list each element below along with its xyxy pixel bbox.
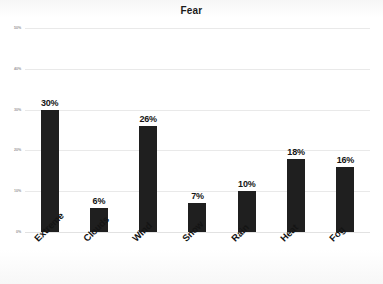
y-axis-tick-label: 40% [14,67,21,71]
y-axis-tick-label: 30% [14,108,21,112]
bar-value-label: 6% [93,196,106,206]
bar-value-label: 7% [191,191,204,201]
bar-slot: 18% [271,28,320,232]
y-axis-tick-label: 20% [14,148,21,152]
chart-title: Fear [0,5,383,16]
bar[interactable] [287,159,305,232]
bar-slot: 10% [222,28,271,232]
bar-slot: 7% [173,28,222,232]
y-axis-tick-label: 0% [16,230,21,234]
y-axis-tick-label: 50% [14,26,21,30]
plot-area: 50%40%30%20%10%0% 30%6%26%7%10%18%16% [25,28,370,232]
bar-value-label: 30% [41,98,58,108]
bar-value-label: 26% [139,114,156,124]
y-axis-tick-label: 10% [14,189,21,193]
bar-value-label: 16% [337,155,354,165]
bar-slot: 26% [124,28,173,232]
bar-value-label: 10% [238,179,255,189]
bar[interactable] [139,126,157,232]
bar-value-label: 18% [287,147,304,157]
bar-slot: 30% [25,28,74,232]
bar-slot: 16% [321,28,370,232]
chart-screenshot: Fear 50%40%30%20%10%0% 30%6%26%7%10%18%1… [0,0,383,284]
bar-slot: 6% [74,28,123,232]
bar[interactable] [336,167,354,232]
